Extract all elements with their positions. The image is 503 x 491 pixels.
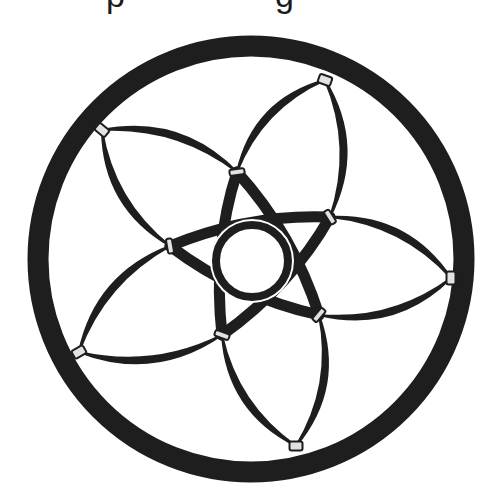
petal-stroke (296, 315, 328, 446)
inner-ring (210, 219, 294, 303)
petal-stroke (102, 130, 170, 246)
petal-stroke (79, 246, 170, 352)
outer-clip (71, 345, 87, 359)
outer-clip (290, 442, 303, 451)
petal-stroke (319, 278, 451, 319)
outer-clip (447, 272, 456, 285)
inner-ring-circle (216, 225, 288, 297)
inner-clip (166, 238, 175, 254)
inner-clip (229, 168, 245, 176)
petal-stroke (237, 80, 325, 172)
outer-clip (317, 74, 332, 87)
rose-window-figure (0, 0, 503, 491)
petal-stroke (325, 80, 347, 217)
petal-stroke (102, 127, 237, 172)
petal-stroke (79, 335, 222, 363)
petal-stroke (222, 335, 296, 446)
petal-stroke (330, 217, 451, 278)
